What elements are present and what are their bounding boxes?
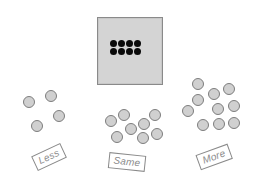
same-ball bbox=[125, 123, 137, 135]
target-dot bbox=[118, 48, 125, 55]
more-ball bbox=[182, 105, 194, 117]
same-ball bbox=[151, 128, 163, 140]
more-ball bbox=[192, 94, 204, 106]
more-ball bbox=[212, 103, 224, 115]
more-ball bbox=[213, 118, 225, 130]
same-ball bbox=[137, 132, 149, 144]
target-dot bbox=[110, 48, 117, 55]
target-dot bbox=[134, 40, 141, 47]
less-ball bbox=[53, 110, 65, 122]
more-ball bbox=[228, 117, 240, 129]
more-ball bbox=[228, 100, 240, 112]
less-label[interactable]: Less bbox=[31, 143, 67, 171]
target-dot bbox=[118, 40, 125, 47]
target-dot bbox=[110, 40, 117, 47]
target-dot bbox=[134, 48, 141, 55]
same-ball bbox=[118, 109, 130, 121]
more-ball bbox=[192, 78, 204, 90]
more-ball bbox=[197, 119, 209, 131]
same-ball bbox=[138, 118, 150, 130]
more-ball bbox=[208, 88, 220, 100]
less-ball bbox=[45, 90, 57, 102]
same-label[interactable]: Same bbox=[108, 152, 146, 172]
same-ball bbox=[111, 131, 123, 143]
target-dot bbox=[126, 48, 133, 55]
same-ball bbox=[105, 115, 117, 127]
less-ball bbox=[31, 120, 43, 132]
target-dot bbox=[126, 40, 133, 47]
less-ball bbox=[23, 96, 35, 108]
more-ball bbox=[223, 83, 235, 95]
same-ball bbox=[149, 109, 161, 121]
more-label[interactable]: More bbox=[195, 144, 232, 171]
